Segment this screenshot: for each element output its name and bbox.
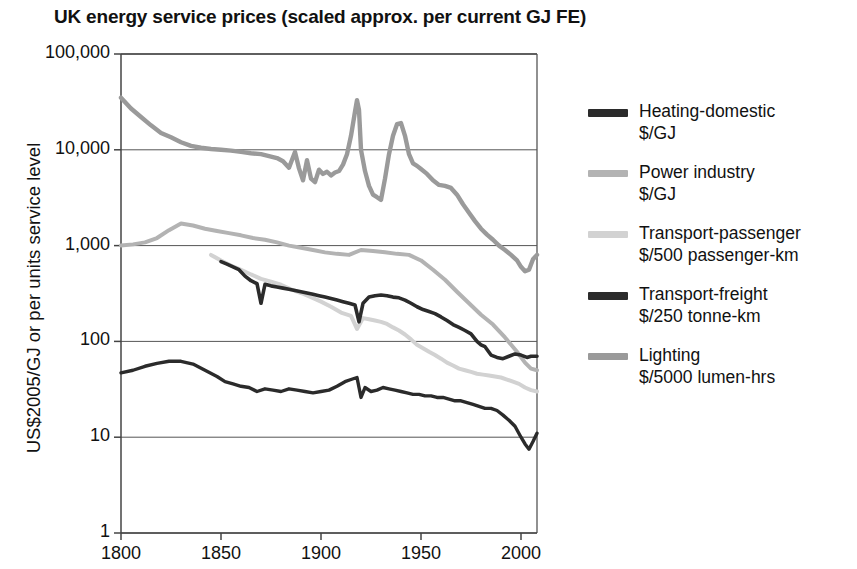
- legend-label: Heating-domestic: [639, 100, 775, 122]
- y-tick-label: 10: [6, 425, 110, 446]
- legend-item-lighting[interactable]: Lighting$/5000 lumen-hrs: [588, 344, 854, 388]
- legend-unit: $/GJ: [639, 183, 755, 205]
- legend-item-transport-passenger[interactable]: Transport-passenger$/500 passenger-km: [588, 222, 854, 266]
- legend-label: Transport-passenger: [639, 222, 801, 244]
- y-tick-label: 10,000: [6, 138, 110, 159]
- series-line-heating-domestic: [221, 262, 537, 359]
- legend-unit: $/500 passenger-km: [639, 244, 801, 266]
- x-tick-label: 1900: [276, 543, 366, 564]
- legend-unit: $/250 tonne-km: [639, 305, 768, 327]
- y-tick-label: 1: [6, 521, 110, 542]
- x-tick-label: 1950: [376, 543, 466, 564]
- x-tick-label: 1850: [176, 543, 266, 564]
- x-tick-label: 1800: [76, 543, 166, 564]
- legend-label: Transport-freight: [639, 283, 768, 305]
- legend-swatch-icon: [588, 231, 628, 238]
- x-tick-label: 2000: [476, 543, 566, 564]
- y-tick-label: 100: [6, 329, 110, 350]
- legend-label: Power industry: [639, 161, 755, 183]
- series-line-transport-passenger: [211, 255, 537, 392]
- legend-item-power-industry[interactable]: Power industry$/GJ: [588, 161, 854, 205]
- chart-figure: UK energy service prices (scaled approx.…: [0, 0, 857, 569]
- y-tick-label: 1,000: [6, 234, 110, 255]
- legend-swatch-icon: [588, 353, 628, 360]
- legend-unit: $/GJ: [639, 122, 775, 144]
- chart-legend: Heating-domestic$/GJPower industry$/GJTr…: [588, 100, 854, 405]
- legend-swatch-icon: [588, 170, 628, 177]
- legend-label: Lighting: [639, 344, 775, 366]
- legend-swatch-icon: [588, 292, 628, 300]
- legend-swatch-icon: [588, 109, 628, 117]
- legend-item-transport-freight[interactable]: Transport-freight$/250 tonne-km: [588, 283, 854, 327]
- y-tick-label: 100,000: [6, 42, 110, 63]
- legend-item-heating-domestic[interactable]: Heating-domestic$/GJ: [588, 100, 854, 144]
- legend-unit: $/5000 lumen-hrs: [639, 366, 775, 388]
